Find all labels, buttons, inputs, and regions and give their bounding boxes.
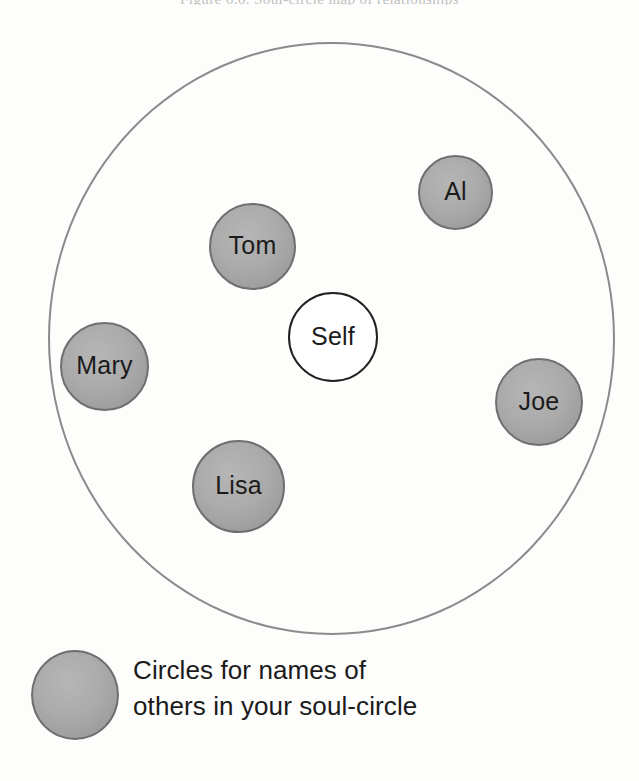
- node-label: Al: [444, 179, 467, 204]
- node-label: Mary: [76, 353, 132, 378]
- node-joe[interactable]: Joe: [495, 358, 583, 446]
- node-label: Self: [311, 324, 355, 349]
- legend-circle-swatch: [31, 650, 119, 740]
- node-al[interactable]: Al: [418, 155, 493, 230]
- node-label: Lisa: [215, 473, 262, 498]
- node-lisa[interactable]: Lisa: [192, 440, 285, 533]
- legend-line-1: Circles for names of: [133, 652, 417, 688]
- node-label: Tom: [229, 233, 277, 258]
- node-self[interactable]: Self: [288, 292, 378, 382]
- node-label: Joe: [519, 389, 560, 414]
- node-tom[interactable]: Tom: [209, 203, 296, 290]
- legend-line-2: others in your soul-circle: [133, 688, 417, 724]
- legend: Circles for names of others in your soul…: [31, 650, 591, 750]
- node-mary[interactable]: Mary: [60, 322, 149, 411]
- legend-text: Circles for names of others in your soul…: [133, 652, 417, 724]
- diagram-page: Figure 6.6. Soul-circle map of relations…: [0, 0, 639, 781]
- cropped-figure-caption: Figure 6.6. Soul-circle map of relations…: [0, 0, 639, 5]
